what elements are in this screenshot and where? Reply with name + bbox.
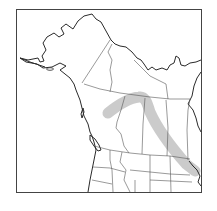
range-map bbox=[0, 0, 217, 211]
political-borders bbox=[82, 40, 192, 192]
coastline bbox=[20, 14, 201, 192]
